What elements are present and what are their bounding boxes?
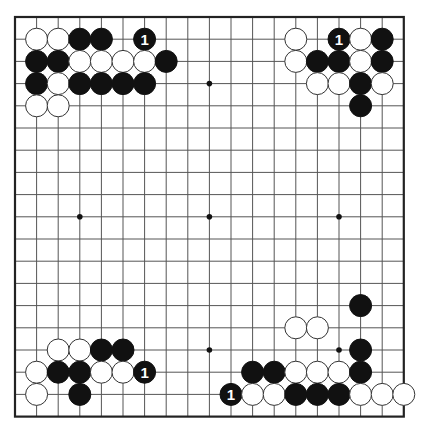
black-stone (263, 361, 285, 383)
white-stone (47, 339, 69, 361)
white-stone (285, 50, 307, 72)
black-stone (371, 28, 393, 50)
white-stone (26, 95, 48, 117)
star-point (207, 214, 213, 220)
black-stone-circle (350, 73, 372, 95)
black-stone (328, 383, 350, 405)
black-stone (155, 50, 177, 72)
white-stone (47, 73, 69, 95)
black-stone (306, 383, 328, 405)
black-stone: 1 (328, 28, 350, 50)
white-stone-circle (47, 73, 69, 95)
move-number-label: 1 (335, 31, 343, 48)
black-stone-circle (371, 28, 393, 50)
black-stone (90, 73, 112, 95)
white-stone (69, 50, 91, 72)
white-stone-circle (371, 383, 393, 405)
star-point (77, 214, 83, 220)
white-stone (242, 383, 264, 405)
white-stone (328, 73, 350, 95)
black-stone-circle (69, 383, 91, 405)
white-stone-circle (285, 361, 307, 383)
move-number-label: 1 (227, 386, 235, 403)
white-stone-circle (285, 28, 307, 50)
white-stone (47, 28, 69, 50)
black-stone-circle (371, 50, 393, 72)
black-stone-circle (134, 73, 156, 95)
white-stone-circle (47, 95, 69, 117)
white-stone-circle (263, 383, 285, 405)
move-number-label: 1 (140, 364, 148, 381)
white-stone-circle (26, 95, 48, 117)
white-stone (285, 361, 307, 383)
white-stone-circle (285, 50, 307, 72)
black-stone-circle (155, 50, 177, 72)
white-stone-circle (393, 383, 415, 405)
black-stone-circle (90, 73, 112, 95)
white-stone (371, 73, 393, 95)
black-stone (69, 28, 91, 50)
black-stone (69, 73, 91, 95)
star-point (207, 347, 213, 353)
white-stone (69, 339, 91, 361)
white-stone (112, 361, 134, 383)
black-stone (350, 339, 372, 361)
go-board-canvas[interactable]: 1111 (0, 0, 426, 436)
black-stone-circle (112, 73, 134, 95)
black-stone (69, 361, 91, 383)
black-stone-circle (69, 73, 91, 95)
white-stone-circle (47, 28, 69, 50)
white-stone-circle (69, 339, 91, 361)
star-point (207, 81, 213, 87)
black-stone (112, 73, 134, 95)
white-stone-circle (26, 383, 48, 405)
white-stone (350, 28, 372, 50)
black-stone-circle (306, 50, 328, 72)
white-stone (90, 361, 112, 383)
black-stone-circle (26, 73, 48, 95)
white-stone (306, 73, 328, 95)
white-stone (47, 95, 69, 117)
white-stone-circle (69, 50, 91, 72)
white-stone-circle (112, 50, 134, 72)
white-stone (350, 383, 372, 405)
black-stone-circle (90, 28, 112, 50)
black-stone-circle (26, 50, 48, 72)
black-stone-circle (306, 383, 328, 405)
white-stone (285, 28, 307, 50)
black-stone-circle (328, 50, 350, 72)
black-stone-circle (350, 339, 372, 361)
white-stone (306, 317, 328, 339)
black-stone (134, 73, 156, 95)
black-stone-circle (263, 361, 285, 383)
white-stone-circle (371, 73, 393, 95)
white-stone-circle (26, 361, 48, 383)
black-stone (26, 50, 48, 72)
white-stone (134, 50, 156, 72)
black-stone (328, 50, 350, 72)
black-stone (350, 95, 372, 117)
go-board[interactable]: 1111 (0, 0, 426, 436)
black-stone-circle (112, 339, 134, 361)
black-stone-circle (47, 361, 69, 383)
white-stone-circle (47, 339, 69, 361)
white-stone-circle (306, 73, 328, 95)
black-stone (242, 361, 264, 383)
black-stone-circle (285, 383, 307, 405)
white-stone (328, 361, 350, 383)
white-stone-circle (285, 317, 307, 339)
black-stone-circle (242, 361, 264, 383)
black-stone (90, 339, 112, 361)
black-stone-circle (69, 28, 91, 50)
white-stone (371, 383, 393, 405)
black-stone (350, 361, 372, 383)
white-stone-circle (350, 50, 372, 72)
white-stone-circle (134, 50, 156, 72)
black-stone: 1 (134, 361, 156, 383)
black-stone (69, 383, 91, 405)
white-stone-circle (306, 361, 328, 383)
star-point (336, 347, 342, 353)
white-stone-circle (90, 361, 112, 383)
black-stone-circle (350, 295, 372, 317)
black-stone-circle (69, 361, 91, 383)
